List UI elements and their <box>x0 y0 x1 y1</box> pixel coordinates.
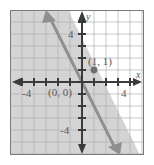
y-tick-label-4: 4 <box>68 29 74 40</box>
x-axis-label: x <box>136 69 140 80</box>
graph-figure: 4 -4 -4 4 (0, 0) (1, 1) y x <box>0 0 154 165</box>
plot-svg <box>10 10 144 155</box>
y-tick-label-neg4: -4 <box>60 125 69 136</box>
point-label-origin: (0, 0) <box>48 87 72 98</box>
x-tick-label-neg4: -4 <box>22 88 31 99</box>
x-tick-label-4: 4 <box>121 88 127 99</box>
y-axis-label: y <box>86 11 90 22</box>
point-label-1-1: (1, 1) <box>88 56 112 67</box>
point-marker-1-1 <box>91 67 98 74</box>
coordinate-plane: 4 -4 -4 4 (0, 0) (1, 1) y x <box>10 10 144 155</box>
